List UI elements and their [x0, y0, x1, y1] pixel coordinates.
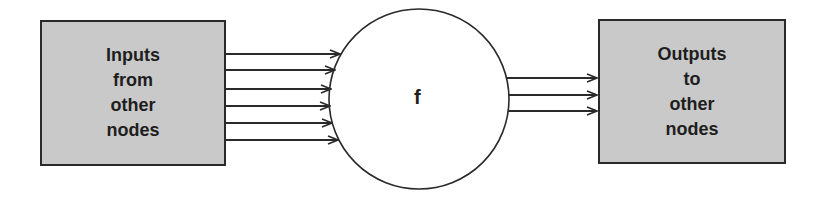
- output-arrows: [507, 78, 597, 111]
- node-function-label: f: [414, 86, 421, 109]
- input-arrows: [226, 54, 340, 140]
- diagram-canvas: [0, 0, 824, 198]
